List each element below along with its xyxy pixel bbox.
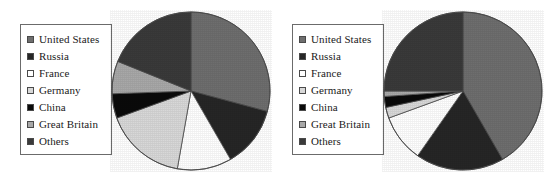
legend-label-china: China (311, 102, 338, 113)
legend-swatch-great-britain (299, 121, 306, 128)
pie-svg-left (110, 10, 272, 172)
legend-label-russia: Russia (311, 51, 341, 62)
legend-item-russia[interactable]: Russia (27, 48, 106, 65)
legend-label-france: France (311, 68, 342, 79)
legend-item-others[interactable]: Others (299, 133, 378, 150)
legend-swatch-russia (299, 53, 306, 60)
legend-label-china: China (39, 102, 66, 113)
legend-item-germany[interactable]: Germany (299, 82, 378, 99)
legend-swatch-great-britain (27, 121, 34, 128)
legend-label-united-states: United States (311, 34, 371, 45)
legend-item-united-states[interactable]: United States (299, 31, 378, 48)
legend-swatch-germany (27, 87, 34, 94)
legend-label-united-states: United States (39, 34, 99, 45)
legend-right: United States Russia France Germany Chin… (292, 24, 384, 155)
pie-svg-right (382, 10, 544, 172)
legend-swatch-germany (299, 87, 306, 94)
legend-swatch-china (299, 104, 306, 111)
pie-chart-right (382, 10, 544, 172)
legend-item-france[interactable]: France (27, 65, 106, 82)
legend-item-france[interactable]: France (299, 65, 378, 82)
chart-panel-right: United States Russia France Germany Chin… (272, 0, 543, 179)
legend-item-others[interactable]: Others (27, 133, 106, 150)
legend-item-great-britain[interactable]: Great Britain (27, 116, 106, 133)
legend-label-france: France (39, 68, 70, 79)
legend-label-others: Others (311, 136, 341, 147)
legend-item-germany[interactable]: Germany (27, 82, 106, 99)
legend-label-germany: Germany (39, 85, 81, 96)
legend-item-china[interactable]: China (27, 99, 106, 116)
legend-swatch-united-states (299, 36, 306, 43)
legend-swatch-france (299, 70, 306, 77)
legend-swatch-china (27, 104, 34, 111)
legend-swatch-russia (27, 53, 34, 60)
chart-panel-left: United States Russia France Germany Chin… (0, 0, 271, 179)
legend-left: United States Russia France Germany Chin… (20, 24, 112, 155)
legend-item-united-states[interactable]: United States (27, 31, 106, 48)
legend-item-great-britain[interactable]: Great Britain (299, 116, 378, 133)
legend-swatch-united-states (27, 36, 34, 43)
pie-slice[interactable] (384, 12, 463, 91)
pie-chart-left (110, 10, 272, 172)
legend-label-germany: Germany (311, 85, 353, 96)
legend-swatch-others (299, 138, 306, 145)
legend-label-others: Others (39, 136, 69, 147)
legend-item-china[interactable]: China (299, 99, 378, 116)
legend-label-great-britain: Great Britain (39, 119, 98, 130)
legend-swatch-others (27, 138, 34, 145)
legend-label-great-britain: Great Britain (311, 119, 370, 130)
legend-label-russia: Russia (39, 51, 69, 62)
legend-swatch-france (27, 70, 34, 77)
legend-item-russia[interactable]: Russia (299, 48, 378, 65)
